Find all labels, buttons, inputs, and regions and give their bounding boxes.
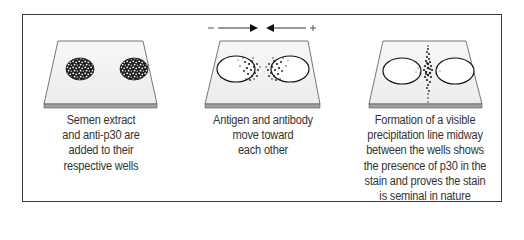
well-right-filled [120,58,148,80]
caption-panel-1: Semen extract and anti-p30 are added to … [39,113,164,174]
caption-line: Formation of a visible [350,113,500,128]
polarity-arrows [208,24,316,32]
plate-3 [369,41,482,108]
caption-line: is seminal in nature [350,189,500,204]
caption-panel-3: Formation of a visible precipitation lin… [350,113,500,204]
caption-line: stain and proves the stain [350,174,500,189]
well-left-diffusing [217,56,255,82]
plate-2 [205,41,320,108]
caption-line: Semen extract [39,113,164,128]
plate-1 [44,41,157,108]
caption-line: the presence of p30 in the [350,159,500,174]
caption-line: Antigen and antibody [199,113,327,128]
caption-panel-2: Antigen and antibody move toward each ot… [199,113,327,159]
caption-line: and anti-p30 are [39,128,164,143]
well-left-filled [66,58,94,80]
well-right-diffusing [271,56,309,82]
caption-line: added to their [39,143,164,158]
well-left-empty [383,58,421,84]
caption-line: respective wells [39,159,164,174]
caption-line: move toward [199,128,327,143]
caption-line: between the wells shows [350,143,500,158]
caption-line: precipitation line midway [350,128,500,143]
caption-line: each other [199,143,327,158]
well-right-empty [436,58,474,84]
